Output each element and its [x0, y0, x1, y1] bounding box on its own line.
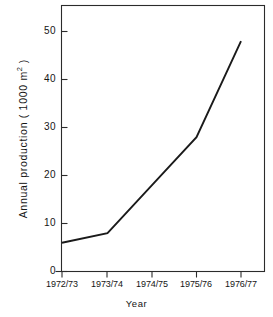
plot-frame — [62, 6, 265, 272]
y-tick-label-10: 10 — [30, 217, 56, 228]
data-line-annual-production — [62, 41, 241, 243]
x-tick-label-1976-77: 1976/77 — [213, 279, 269, 289]
x-axis-title: Year — [0, 298, 273, 309]
y-tick-label-0: 0 — [30, 265, 56, 276]
x-axis-ticks — [62, 272, 241, 278]
y-tick-label-20: 20 — [30, 169, 56, 180]
y-tick-label-40: 40 — [30, 73, 56, 84]
y-tick-label-30: 30 — [30, 121, 56, 132]
chart-figure: Annual production ( 1000 m2 ) 50 40 30 2… — [0, 0, 273, 317]
y-tick-label-50: 50 — [30, 25, 56, 36]
